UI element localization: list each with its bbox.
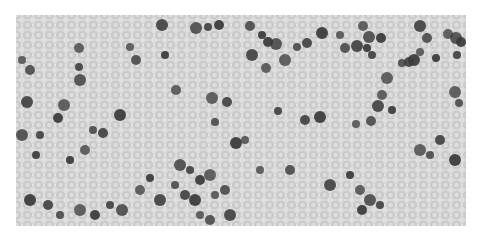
nucleated-cell (204, 169, 216, 181)
nucleated-cell (53, 113, 63, 123)
nucleated-cell (449, 154, 461, 166)
nucleated-cell (186, 166, 194, 174)
nucleated-cell (98, 128, 108, 138)
nucleated-cell (190, 22, 202, 34)
nucleated-cell (364, 194, 376, 206)
nucleated-cell (196, 211, 204, 219)
nucleated-cell (336, 31, 344, 39)
nucleated-cell (154, 194, 166, 206)
nucleated-cell (74, 74, 86, 86)
nucleated-cell (352, 120, 360, 128)
nucleated-cell (56, 211, 64, 219)
nucleated-cell (449, 86, 461, 98)
nucleated-cell (368, 51, 376, 59)
nucleated-cell (230, 137, 242, 149)
nucleated-cell (363, 44, 371, 52)
nucleated-cell (355, 185, 365, 195)
nucleated-cell (58, 99, 70, 111)
nucleated-cell (211, 191, 219, 199)
nucleated-cell (285, 165, 295, 175)
nucleated-cell (114, 109, 126, 121)
nucleated-cell (131, 55, 141, 65)
nucleated-cell (146, 174, 154, 182)
nucleated-cell (241, 136, 249, 144)
nucleated-cell (416, 48, 424, 56)
nucleated-cell (279, 54, 291, 66)
nucleated-cell (435, 135, 445, 145)
nucleated-cell (363, 31, 375, 43)
nucleated-cell (214, 20, 224, 30)
nucleated-cell (453, 51, 461, 59)
nucleated-cell (414, 144, 426, 156)
nucleated-cell (106, 201, 114, 209)
nucleated-cell (376, 201, 384, 209)
nucleated-cell (171, 85, 181, 95)
nucleated-cell (18, 56, 26, 64)
nucleated-cell (316, 27, 328, 39)
nucleated-cell (302, 38, 312, 48)
nucleated-cell (74, 43, 84, 53)
nucleated-cell (74, 204, 86, 216)
nucleated-cell (245, 21, 255, 31)
nucleated-cell (205, 215, 215, 225)
nucleated-cell (261, 63, 271, 73)
nucleated-cell (189, 194, 201, 206)
nucleated-cell (156, 19, 168, 31)
nucleated-cell (80, 145, 90, 155)
nucleated-cell (366, 116, 376, 126)
nucleated-cell (456, 37, 466, 47)
nucleated-cell (263, 37, 273, 47)
nucleated-cell (180, 190, 190, 200)
cell-field (16, 15, 466, 226)
nucleated-cell (357, 205, 367, 215)
nucleated-cell (36, 131, 44, 139)
nucleated-cell (211, 118, 219, 126)
nucleated-cell (66, 156, 74, 164)
nucleated-cell (126, 43, 134, 51)
nucleated-cell (24, 194, 36, 206)
nucleated-cell (381, 72, 393, 84)
nucleated-cell (161, 51, 169, 59)
nucleated-cell (16, 129, 28, 141)
nucleated-cell (455, 99, 463, 107)
nucleated-cell (346, 171, 354, 179)
nucleated-cell (25, 65, 35, 75)
nucleated-cell (414, 20, 426, 32)
nucleated-cell (422, 33, 432, 43)
nucleated-cell (195, 175, 205, 185)
nucleated-cell (32, 151, 40, 159)
nucleated-cell (256, 166, 264, 174)
nucleated-cell (222, 97, 232, 107)
nucleated-cell (432, 54, 440, 62)
blood-smear-image (16, 15, 466, 226)
nucleated-cell (376, 33, 386, 43)
nucleated-cell (246, 49, 258, 61)
nucleated-cell (372, 100, 384, 112)
nucleated-cell (174, 159, 186, 171)
nucleated-cell (224, 209, 236, 221)
nucleated-cell (293, 43, 301, 51)
nucleated-cell (135, 185, 145, 195)
nucleated-cell (43, 200, 53, 210)
nucleated-cell (426, 151, 434, 159)
nucleated-cell (258, 31, 266, 39)
nucleated-cell (314, 111, 326, 123)
nucleated-cell (408, 54, 420, 66)
nucleated-cell (324, 179, 336, 191)
nucleated-cell (358, 21, 368, 31)
nucleated-cell (377, 90, 387, 100)
nucleated-cell (274, 107, 282, 115)
nucleated-cell (21, 96, 33, 108)
nucleated-cell (89, 126, 97, 134)
nucleated-cell (300, 115, 310, 125)
nucleated-cell (351, 40, 363, 52)
nucleated-cell (206, 92, 218, 104)
nucleated-cell (90, 210, 100, 220)
nucleated-cell (204, 23, 212, 31)
nucleated-cell (388, 106, 396, 114)
nucleated-cell (340, 43, 350, 53)
nucleated-cell (220, 185, 230, 195)
nucleated-cell (116, 204, 128, 216)
nucleated-cell (75, 63, 83, 71)
nucleated-cell (171, 181, 179, 189)
